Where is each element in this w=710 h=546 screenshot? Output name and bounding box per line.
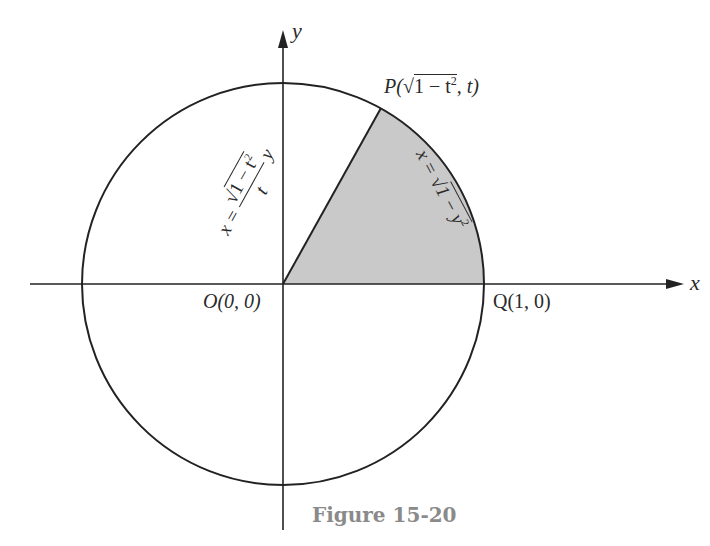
p-suffix: , t) — [457, 75, 479, 97]
y-axis-label: y — [292, 18, 302, 44]
point-q-label: Q(1, 0) — [493, 290, 551, 313]
origin-text: O(0, 0) — [203, 290, 261, 312]
x-axis-arrow-icon — [666, 279, 684, 289]
p-radicand: 1 − t — [414, 75, 451, 97]
origin-label: O(0, 0) — [203, 290, 261, 313]
point-q-text: Q(1, 0) — [493, 290, 551, 312]
y-axis-arrow-icon — [278, 30, 288, 48]
diagram-canvas — [0, 0, 710, 546]
x-axis-label: x — [690, 270, 700, 296]
sqrt-icon: √ — [403, 75, 414, 97]
point-p-label: P(√1 − t2, t) — [384, 74, 479, 98]
p-radicand-wrap: 1 − t2 — [414, 74, 457, 97]
p-prefix: P( — [384, 75, 403, 97]
figure-caption: Figure 15-20 — [312, 503, 457, 527]
